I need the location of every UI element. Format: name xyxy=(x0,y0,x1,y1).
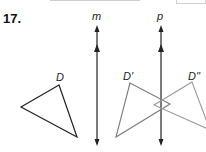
direction-arrow-icon xyxy=(94,44,100,52)
line-m-label: m xyxy=(92,10,101,22)
triangle-d-double-prime-label: D'' xyxy=(188,70,201,82)
direction-arrow-icon xyxy=(158,44,164,52)
line-p-label: p xyxy=(156,10,163,22)
arrow-down-icon xyxy=(159,139,164,146)
arrow-up-icon xyxy=(159,25,164,32)
arrow-up-icon xyxy=(95,25,100,32)
line-p xyxy=(158,25,164,146)
arrow-down-icon xyxy=(95,139,100,146)
triangle-d xyxy=(21,85,77,137)
triangle-d-label: D xyxy=(56,71,64,83)
triangle-d-double-prime xyxy=(154,82,206,130)
line-m xyxy=(94,25,100,146)
triangle-d-prime-label: D' xyxy=(123,70,134,82)
triangle-d-prime xyxy=(116,83,170,137)
reflection-figure: m p D D' D'' xyxy=(0,0,206,152)
